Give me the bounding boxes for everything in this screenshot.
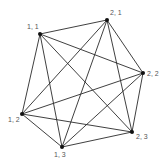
edge-1-1-to-2-3 — [40, 34, 132, 132]
node-2-3 — [130, 130, 134, 134]
node-label-1-3: 1, 3 — [54, 151, 66, 158]
edge-2-3-to-1-2 — [22, 114, 132, 132]
edge-2-1-to-2-3 — [107, 20, 132, 132]
labels-group: 1, 12, 12, 22, 31, 31, 2 — [8, 9, 159, 158]
complete-graph-diagram: 1, 12, 12, 22, 31, 31, 2 — [0, 0, 168, 161]
node-2-1 — [105, 18, 109, 22]
node-1-2 — [20, 112, 24, 116]
node-label-1-1: 1, 1 — [27, 23, 39, 30]
edge-1-3-to-1-2 — [22, 114, 62, 147]
node-label-2-2: 2, 2 — [147, 70, 159, 77]
node-2-2 — [141, 71, 145, 75]
edges-group — [22, 20, 143, 147]
node-label-1-2: 1, 2 — [8, 116, 20, 123]
node-1-1 — [38, 32, 42, 36]
edge-1-1-to-2-1 — [40, 20, 107, 34]
node-1-3 — [60, 145, 64, 149]
edge-2-3-to-1-3 — [62, 132, 132, 147]
edge-1-1-to-1-2 — [22, 34, 40, 114]
edge-2-2-to-1-3 — [62, 73, 143, 147]
edge-2-1-to-2-2 — [107, 20, 143, 73]
edge-1-1-to-2-2 — [40, 34, 143, 73]
edge-2-1-to-1-3 — [62, 20, 107, 147]
node-label-2-1: 2, 1 — [110, 9, 122, 16]
node-label-2-3: 2, 3 — [136, 133, 148, 140]
